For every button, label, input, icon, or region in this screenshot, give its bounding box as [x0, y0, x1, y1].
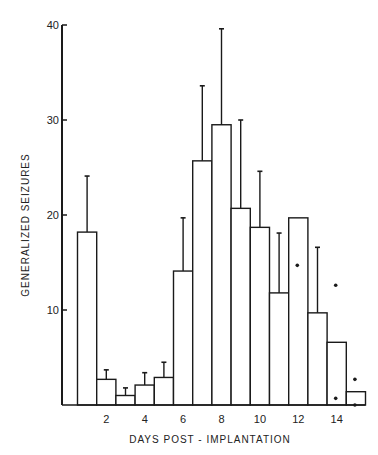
bar: [212, 125, 231, 405]
x-tick-label: 4: [142, 413, 148, 425]
bar: [174, 271, 193, 405]
data-point: [334, 397, 338, 401]
bar: [97, 379, 116, 405]
y-tick-label: 30: [47, 114, 59, 126]
bar: [231, 208, 250, 405]
data-point: [296, 264, 300, 268]
bar: [308, 313, 327, 405]
y-axis: 10203040: [47, 19, 67, 405]
x-axis-title: DAYS POST - IMPLANTATION: [129, 434, 291, 445]
bar: [135, 385, 154, 405]
y-tick-label: 40: [47, 19, 59, 31]
bar: [78, 232, 97, 405]
bar: [289, 218, 308, 405]
x-tick-label: 6: [180, 413, 186, 425]
x-tick-label: 14: [331, 413, 343, 425]
x-tick-label: 12: [292, 413, 304, 425]
bar: [193, 161, 212, 405]
bars: [78, 125, 366, 405]
x-tick-label: 8: [218, 413, 224, 425]
bar: [116, 396, 135, 406]
bar: [346, 392, 365, 405]
data-point: [334, 284, 338, 288]
y-axis-title: GENERALIZED SEIZURES: [20, 153, 31, 296]
x-tick-label: 10: [254, 413, 266, 425]
y-tick-label: 20: [47, 209, 59, 221]
y-tick-label: 10: [47, 304, 59, 316]
x-tick-label: 2: [103, 413, 109, 425]
x-axis: 2468101214: [62, 405, 366, 425]
bar: [270, 293, 289, 405]
bar: [154, 377, 173, 405]
data-point: [353, 378, 357, 382]
bar-chart: 10203040 2468101214 GENERALIZED SEIZURES…: [0, 0, 378, 455]
bar: [250, 227, 269, 405]
bar: [327, 342, 346, 405]
